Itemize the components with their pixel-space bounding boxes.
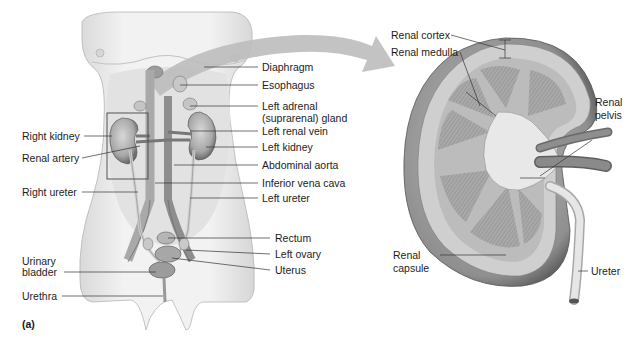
- label-rectum: Rectum: [275, 232, 311, 244]
- label-left-ureter: Left ureter: [262, 192, 310, 204]
- kidney-section-illustration: [404, 38, 608, 304]
- label-renal-artery: Renal artery: [22, 152, 79, 164]
- label-left-ovary: Left ovary: [275, 248, 321, 260]
- label-diaphragm: Diaphragm: [262, 61, 313, 73]
- label-uterus: Uterus: [275, 264, 306, 276]
- label-renal-medulla: Renal medulla: [391, 46, 458, 58]
- label-renal-cortex: Renal cortex: [391, 29, 450, 41]
- label-left-adrenal-line1: Left adrenal: [262, 100, 317, 112]
- label-right-kidney: Right kidney: [22, 130, 80, 142]
- label-abdominal-aorta: Abdominal aorta: [262, 159, 338, 171]
- label-inferior-vena-cava: Inferior vena cava: [262, 177, 345, 189]
- label-urinary-bladder-line2: bladder: [22, 266, 57, 278]
- label-renal-pelvis-line1: Renal: [595, 96, 622, 108]
- label-renal-pelvis-line2: pelvis: [595, 109, 622, 121]
- label-urethra: Urethra: [22, 290, 57, 302]
- label-left-renal-vein: Left renal vein: [262, 125, 328, 137]
- panel-label: (a): [22, 318, 35, 330]
- label-esophagus: Esophagus: [262, 79, 315, 91]
- label-ureter: Ureter: [591, 265, 620, 277]
- label-renal-capsule-line1: Renal: [393, 249, 420, 261]
- label-left-adrenal-line2: (suprarenal) gland: [262, 112, 347, 124]
- label-renal-capsule-line2: capsule: [393, 262, 429, 274]
- label-left-kidney: Left kidney: [262, 141, 313, 153]
- label-right-ureter: Right ureter: [22, 186, 77, 198]
